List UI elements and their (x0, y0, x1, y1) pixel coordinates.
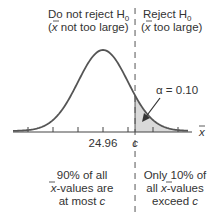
left-header-line2: (x not too large) (48, 21, 129, 33)
right-footer-line1: Only 10% of (144, 169, 207, 181)
right-header-line2: (x too large) (141, 21, 203, 33)
chart: Do not reject H0 (x not too large) Rejec… (0, 0, 215, 222)
right-footer-line2: all x-values (146, 182, 204, 194)
tick-label-mean: 24.96 (89, 137, 118, 149)
alpha-arrow-shaft (145, 98, 160, 118)
tick-label-c: c (132, 137, 138, 149)
x-axis-label: x (198, 126, 206, 138)
left-footer-line1: 90% of all (57, 169, 108, 181)
right-footer-line3: exceed c (152, 195, 198, 207)
alpha-label: α = 0.10 (156, 84, 198, 96)
left-footer-line3: at most c (59, 195, 106, 207)
left-footer-line2: x-values are (50, 182, 114, 194)
